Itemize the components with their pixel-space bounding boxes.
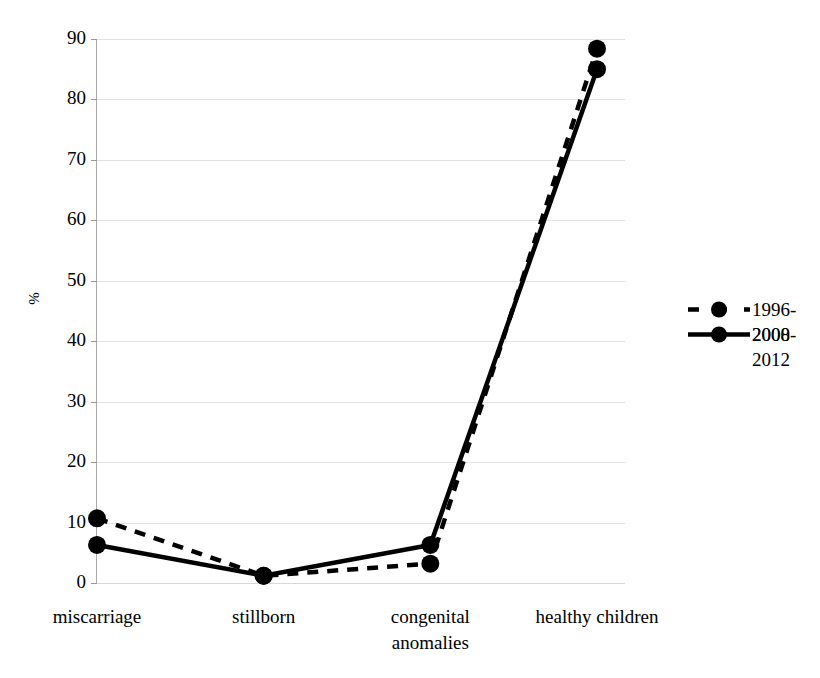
data-point-marker [421, 555, 439, 573]
legend-item: 2008-2012 [686, 322, 816, 347]
legend-sample-dashed-line [686, 297, 752, 322]
series-line-1996-2000 [97, 49, 597, 576]
legend-sample-solid-line [686, 322, 752, 347]
line-chart: % 0102030405060708090 miscarriagestillbo… [0, 0, 820, 678]
data-point-marker [588, 60, 606, 78]
data-point-marker [255, 567, 273, 585]
legend-label: 2008-2012 [752, 322, 820, 372]
data-point-marker [88, 536, 106, 554]
data-point-marker [588, 40, 606, 58]
data-point-marker [421, 536, 439, 554]
legend-line-icon [686, 322, 752, 347]
legend: 1996-20002008-2012 [686, 297, 816, 347]
legend-line-icon [686, 297, 752, 322]
series-line-2008-2012 [97, 69, 597, 576]
data-point-marker [88, 509, 106, 527]
legend-item: 1996-2000 [686, 297, 816, 322]
